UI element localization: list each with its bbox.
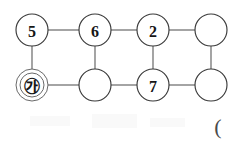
graph-node-empty[interactable] [79, 69, 111, 101]
graph-node-r1c2[interactable]: 6 [79, 14, 111, 46]
graph-node-r1c3[interactable]: 2 [137, 14, 169, 46]
node-label: ㉮ [24, 77, 40, 95]
grid-graph: 562㉮7 ( [0, 0, 240, 143]
node-outline-circle [195, 69, 227, 101]
graph-node-r2c1[interactable]: ㉮ [16, 69, 48, 101]
node-outline-circle [79, 69, 111, 101]
node-label: 5 [28, 23, 36, 40]
nodes-layer: 562㉮7 [16, 14, 227, 101]
graph-node-empty[interactable] [195, 14, 227, 46]
edges-layer [32, 30, 211, 85]
open-paren-annotation: ( [214, 114, 221, 139]
node-outline-circle [195, 14, 227, 46]
node-label: 6 [91, 23, 99, 40]
diagram-canvas: 562㉮7 ( [0, 0, 240, 143]
graph-node-r1c1[interactable]: 5 [16, 14, 48, 46]
graph-node-empty[interactable] [195, 69, 227, 101]
graph-node-r2c3[interactable]: 7 [137, 69, 169, 101]
node-label: 7 [149, 78, 157, 95]
node-label: 2 [149, 23, 157, 40]
